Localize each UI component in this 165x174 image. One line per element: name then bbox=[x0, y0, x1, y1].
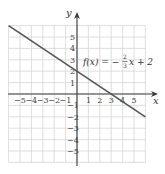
y-tick-label: −2 bbox=[67, 113, 79, 122]
x-tick-label: 5 bbox=[132, 96, 137, 105]
x-tick-label: 3 bbox=[109, 96, 114, 105]
axes bbox=[8, 12, 158, 166]
y-tick-label: 5 bbox=[70, 33, 75, 42]
y-tick-label: 4 bbox=[70, 44, 75, 53]
fraction-numerator: 2 bbox=[123, 53, 127, 60]
function-graph: −5−4−3−2−112345−5−4−3−2−112345 x y f(x) … bbox=[0, 0, 165, 174]
x-tick-label: −4 bbox=[25, 96, 37, 105]
svg-text:x + 2: x + 2 bbox=[129, 57, 153, 67]
y-tick-label: −4 bbox=[67, 136, 79, 145]
y-tick-label: 3 bbox=[70, 56, 75, 65]
y-tick-label: −3 bbox=[67, 124, 79, 133]
x-axis-label: x bbox=[153, 95, 159, 106]
y-tick-label: 1 bbox=[70, 79, 75, 88]
y-axis-label: y bbox=[65, 7, 72, 18]
x-tick-label: −2 bbox=[48, 96, 60, 105]
x-tick-label: −3 bbox=[37, 96, 49, 105]
x-tick-label: 2 bbox=[97, 96, 102, 105]
equation-label: f(x) = − 2 3 x + 2 bbox=[82, 53, 153, 69]
x-tick-label: 1 bbox=[86, 96, 91, 105]
x-tick-label: −5 bbox=[14, 96, 26, 105]
fraction-denominator: 3 bbox=[123, 62, 127, 69]
svg-text:f(x) = −: f(x) = − bbox=[82, 57, 119, 67]
y-tick-label: −5 bbox=[67, 147, 79, 156]
y-tick-label: −1 bbox=[67, 101, 79, 110]
